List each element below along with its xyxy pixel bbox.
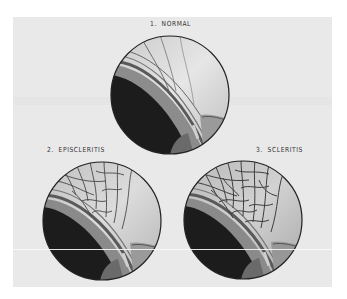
scan-line [13, 249, 332, 250]
panel-title: NORMAL [162, 20, 191, 28]
panel-label-scleritis: 3.SCLERITIS [256, 146, 303, 154]
panel-label-episcleritis: 2.EPISCLERITIS [47, 146, 105, 154]
eye-illustration-normal [110, 35, 230, 155]
panel-number: 1. [150, 20, 157, 28]
panel-title: SCLERITIS [268, 146, 303, 154]
eye-illustration-episcleritis [42, 161, 162, 281]
panel-title: EPISCLERITIS [59, 146, 105, 154]
panel-number: 3. [256, 146, 263, 154]
eye-illustration-scleritis [183, 160, 303, 280]
panel-number: 2. [47, 146, 54, 154]
panel-label-normal: 1.NORMAL [150, 20, 191, 28]
